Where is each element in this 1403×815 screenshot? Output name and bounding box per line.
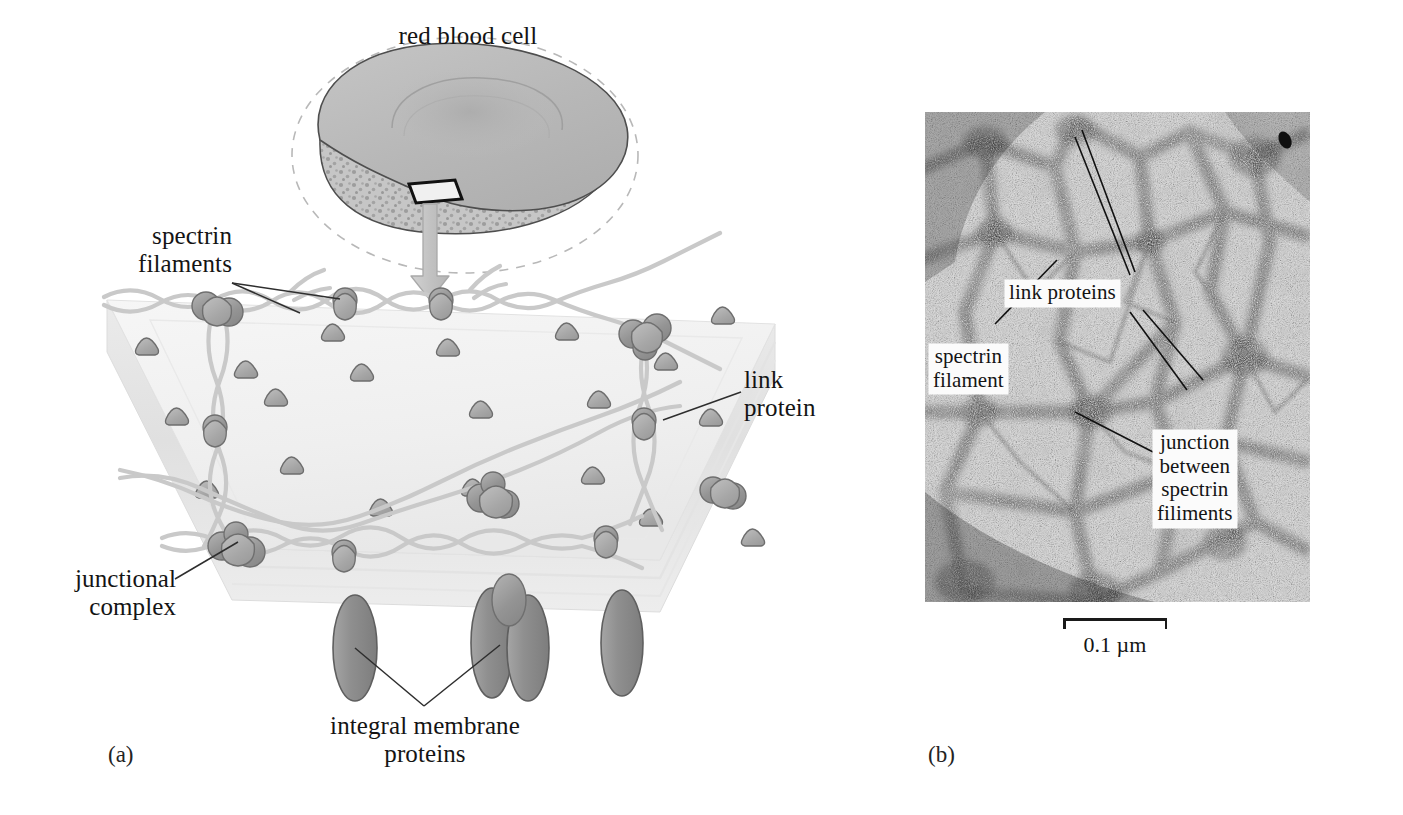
spectrin-filament-label: spectrin filament bbox=[929, 344, 1008, 394]
link-protein bbox=[203, 415, 227, 447]
spectrin-filaments-label: spectrin filaments bbox=[20, 222, 232, 279]
link-proteins-label: link proteins bbox=[1005, 280, 1120, 307]
link-protein-label: link protein bbox=[744, 366, 904, 423]
integral-membrane-protein bbox=[601, 590, 643, 696]
scale-bar-label: 0.1 µm bbox=[1063, 632, 1167, 658]
link-protein bbox=[332, 540, 356, 572]
junctional-complex-label: junctional complex bbox=[0, 565, 176, 622]
cell-dimple-shading bbox=[384, 66, 556, 158]
link-protein bbox=[429, 288, 453, 320]
link-protein bbox=[594, 526, 618, 558]
integral-membrane-protein-cap bbox=[492, 574, 526, 626]
red-blood-cell-diagram bbox=[292, 37, 638, 300]
junction-label: junction between spectrin filiments bbox=[1153, 430, 1237, 528]
leader-link-proteins-up-1 bbox=[1075, 137, 1130, 275]
integral-membrane-proteins-label: integral membrane proteins bbox=[284, 712, 566, 769]
link-protein bbox=[632, 408, 656, 440]
scale-bar-line bbox=[1063, 618, 1167, 621]
figure-root: red blood cell spectrin filaments link p… bbox=[0, 0, 1403, 815]
red-blood-cell-label: red blood cell bbox=[348, 22, 588, 50]
magnified-region-marker bbox=[409, 180, 462, 203]
electron-micrograph-panel: link proteins spectrin filament junction… bbox=[925, 112, 1310, 602]
scale-bar-rule bbox=[1063, 618, 1167, 629]
link-protein bbox=[333, 288, 357, 320]
leader-link-proteins-up-2 bbox=[1082, 130, 1135, 272]
surface-protein bbox=[711, 307, 734, 324]
scale-bar-cap-left bbox=[1063, 618, 1066, 629]
leader-junction bbox=[1075, 412, 1153, 452]
surface-protein bbox=[741, 529, 764, 546]
scale-bar: 0.1 µm bbox=[1063, 618, 1167, 658]
panel-letter-a: (a) bbox=[108, 742, 134, 768]
panel-letter-b: (b) bbox=[928, 742, 955, 768]
scale-bar-cap-right bbox=[1165, 618, 1168, 629]
